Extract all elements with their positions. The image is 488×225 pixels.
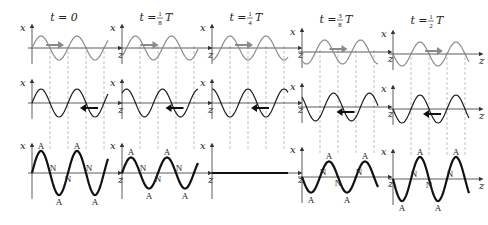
x-axis-label: x [290,81,296,92]
backward-wave-plot: xz [200,77,304,119]
backward-arrow-head [80,104,86,112]
time-label: t = [410,14,427,27]
antinode-label: A [56,197,63,207]
standing-wave-plot: xzAAAANNN [110,140,214,201]
backward-wave-plot: xz [381,83,485,125]
z-axis-label: z [297,104,304,115]
z-axis-label: z [207,49,214,60]
standing-wave-diagram: t = 0xzxzxzAAAANNNt = 18TxzxzxzAAAANNNt … [0,0,488,225]
x-axis-label: x [200,140,206,151]
z-axis-label: z [117,104,124,115]
antinode-label: A [146,191,153,201]
time-prefix: t = [50,11,71,24]
x-axis-label: x [110,22,116,33]
antinode-label: A [453,147,460,157]
panel-3: t = 38TxzxzxzAAAANNN [290,12,394,205]
standing-wave-plot: xz [200,140,304,199]
guide-lines [320,50,374,153]
x-axis-label: x [200,77,206,88]
antinode-label: A [435,203,442,213]
z-axis-label: z [207,104,214,115]
time-period-symbol: T [436,14,445,27]
backward-wave-plot: xz [20,77,124,119]
antinode-label: A [326,151,333,161]
x-axis-label: x [290,144,296,155]
x-axis-label: x [381,28,387,39]
fraction-denominator: 2 [429,22,433,30]
x-axis-label: x [110,77,116,88]
node-label: N [176,163,183,173]
time-label: t = [319,13,336,26]
node-label: N [356,167,363,177]
panel-0: t = 0xzxzxzAAAANNN [20,11,124,207]
backward-arrow-head [251,104,257,112]
forward-wave-plot: xz [200,22,304,64]
time-fraction: 18 [157,10,163,27]
antinode-label: A [362,151,369,161]
time-fraction: 38 [337,12,343,29]
fraction-denominator: 8 [158,19,162,27]
time-period-symbol: T [345,13,354,26]
x-axis-label: x [20,77,26,88]
time-prefix: t = [139,11,156,24]
node-label: N [50,163,57,173]
standing-wave-plot: xzAAAANNN [20,140,124,207]
node-label: N [335,178,342,188]
forward-wave-plot: xz [110,22,214,64]
x-axis-label: x [381,146,387,157]
panel-2: t = 14Txzxzxz [200,10,304,199]
antinode-label: A [38,141,45,151]
antinode-label: A [74,141,81,151]
guide-lines [50,46,104,149]
node-label: N [140,163,147,173]
antinode-label: A [92,197,99,207]
node-label: N [86,163,93,173]
panel-1: t = 18TxzxzxzAAAANNN [110,10,214,201]
z-axis-label: z [117,174,124,185]
node-label: N [411,169,418,179]
x-axis-label: x [20,22,26,33]
fraction-numerator: 1 [158,10,162,18]
time-fraction: 12 [428,13,434,30]
node-label: N [155,174,162,184]
guide-lines [411,52,465,155]
x-axis-label: x [110,140,116,151]
time-value: 0 [71,11,78,24]
antinode-label: A [344,195,351,205]
backward-arrow-head [166,104,172,112]
backward-wave-plot: xz [110,77,214,119]
node-label: N [447,169,454,179]
antinode-label: A [308,195,315,205]
antinode-label: A [417,147,424,157]
fraction-numerator: 3 [338,12,342,20]
time-period-symbol: T [255,11,264,24]
node-label: N [320,167,327,177]
x-axis-label: x [381,83,387,94]
time-label: t = [139,11,156,24]
x-axis-label: x [290,26,296,37]
fraction-numerator: 1 [248,10,252,18]
time-period-symbol: T [165,11,174,24]
antinode-label: A [399,203,406,213]
guide-lines [140,46,194,149]
antinode-label: A [182,191,189,201]
z-axis-label: z [478,110,485,121]
z-axis-label: z [478,180,485,191]
z-axis-label: z [297,49,304,60]
fraction-denominator: 8 [338,21,342,29]
time-prefix: t = [319,13,336,26]
time-prefix: t = [410,14,427,27]
fraction-numerator: 1 [429,13,433,21]
guide-lines [230,46,284,149]
panel-4: t = 12TxzxzxzAAAANNN [381,13,485,213]
x-axis-label: x [200,22,206,33]
z-axis-label: z [207,174,214,185]
node-label: N [426,180,433,190]
fraction-denominator: 4 [248,19,252,27]
node-label: N [65,174,72,184]
x-axis-label: x [20,140,26,151]
antinode-label: A [164,147,171,157]
time-label: t = 0 [50,11,78,24]
forward-wave-plot: xz [290,26,394,68]
time-fraction: 14 [247,10,253,27]
